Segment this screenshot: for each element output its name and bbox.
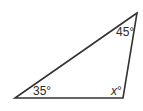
angle-label-bottom-left: 35° xyxy=(33,84,51,98)
angle-label-bottom-right: x° xyxy=(110,84,122,98)
degree-symbol: ° xyxy=(117,84,122,98)
angle-label-top: 45° xyxy=(116,25,134,39)
triangle-diagram: 45° 35° x° xyxy=(0,0,143,111)
